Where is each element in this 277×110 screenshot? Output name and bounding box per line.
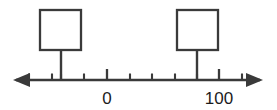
tick-label-zero: 0 xyxy=(102,89,111,108)
number-line-canvas: 0100 xyxy=(0,0,277,110)
answer-box-left[interactable] xyxy=(40,10,81,50)
tick-label-hundred: 100 xyxy=(205,89,233,108)
number-line-figure: 0100 xyxy=(0,0,277,110)
answer-markers-group xyxy=(40,10,218,80)
answer-box-right[interactable] xyxy=(177,10,218,50)
axis-labels-group: 0100 xyxy=(102,89,233,108)
axis-left-arrow-icon xyxy=(13,73,30,87)
axis-right-arrow-icon xyxy=(246,73,263,87)
